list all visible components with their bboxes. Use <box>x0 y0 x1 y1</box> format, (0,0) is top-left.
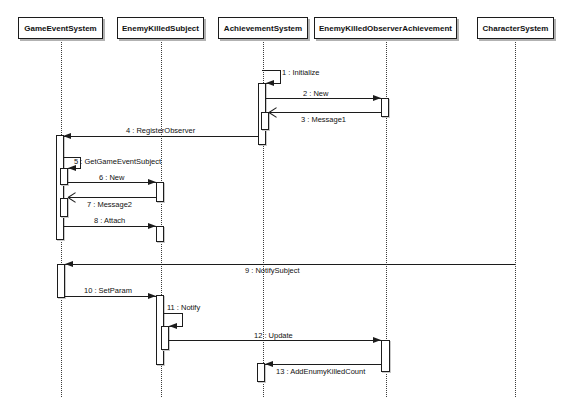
message-line <box>265 364 381 365</box>
sequence-diagram: GameEventSystemEnemyKilledSubjectAchieve… <box>0 0 572 412</box>
activation-bar-enemykilledsubject <box>161 326 169 350</box>
activation-bar-gameeventsystem <box>57 264 65 298</box>
message-label: 11 : Notify <box>167 303 200 312</box>
message-arrowhead <box>265 361 273 367</box>
message-line <box>269 112 381 113</box>
actor-box-gameeventsystem: GameEventSystem <box>18 17 103 39</box>
message-line <box>63 226 156 227</box>
activation-bar-gameeventsystem <box>60 198 68 217</box>
message-arrowhead <box>373 337 381 343</box>
actor-box-enemykilledobserverachievement: EnemyKilledObserverAchievement <box>314 17 457 39</box>
activation-bar-enemykilledobserverachievement <box>381 340 390 372</box>
lifeline-charactersystem <box>515 39 516 397</box>
activation-bar-enemykilledsubject <box>156 226 164 242</box>
message-arrowhead <box>148 179 156 185</box>
self-message-line <box>280 70 281 84</box>
message-label: 13 : AddEnumyKilledCount <box>276 367 365 376</box>
message-label: 5 : GetGameEventSubject <box>74 157 161 166</box>
message-arrowhead <box>373 95 381 101</box>
message-label: 6 : New <box>99 173 124 182</box>
message-label: 2 : New <box>303 89 328 98</box>
message-arrowhead <box>63 133 71 139</box>
message-label: 10 : SetParam <box>84 286 132 295</box>
message-label: 1 : Initialize <box>282 68 320 77</box>
message-arrowhead <box>266 80 274 86</box>
actor-box-enemykilledsubject: EnemyKilledSubject <box>117 17 204 39</box>
message-line <box>169 340 381 341</box>
message-line <box>68 182 156 183</box>
message-arrowhead <box>169 323 177 329</box>
message-arrowhead <box>65 261 73 267</box>
message-label: 12 : Update <box>254 331 293 340</box>
self-message-line <box>164 313 182 314</box>
actor-box-achievementsystem: AchievementSystem <box>218 17 308 39</box>
message-label: 7 : Message2 <box>87 200 132 209</box>
message-line <box>63 136 258 137</box>
activation-bar-gameeventsystem <box>56 135 64 240</box>
message-label: 8 : Attach <box>94 216 125 225</box>
activation-bar-achievementsystem <box>261 112 269 130</box>
message-line <box>65 264 515 265</box>
message-label: 3 : Message1 <box>301 115 346 124</box>
self-message-line <box>182 313 183 327</box>
activation-bar-enemykilledobserverachievement <box>381 98 389 117</box>
message-arrowhead <box>148 293 156 299</box>
message-line <box>266 98 381 99</box>
message-arrowhead <box>148 223 156 229</box>
activation-bar-achievementsystem <box>257 363 265 382</box>
activation-bar-gameeventsystem <box>60 168 68 185</box>
message-line <box>68 197 156 198</box>
message-label: 9 : NotifySubject <box>245 266 300 275</box>
message-line <box>65 296 156 297</box>
message-label: 4 : RegisterObserver <box>126 126 195 135</box>
actor-box-charactersystem: CharacterSystem <box>477 17 554 39</box>
activation-bar-enemykilledsubject <box>156 182 164 202</box>
self-message-line <box>262 70 280 71</box>
